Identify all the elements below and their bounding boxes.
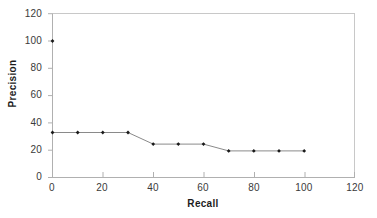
- precision-recall-chart: 120 100 80 60 40 20 0 0 20 40 60 80 100 …: [0, 0, 377, 218]
- data-point: [76, 131, 80, 135]
- plot-frame: [52, 14, 355, 178]
- data-point: [101, 131, 105, 135]
- data-point: [151, 142, 155, 146]
- data-point: [51, 39, 55, 43]
- data-point: [176, 142, 180, 146]
- series-line: [53, 133, 305, 151]
- data-point: [51, 131, 55, 135]
- plot-area: [0, 0, 377, 218]
- data-point: [227, 149, 231, 153]
- x-axis-tick-marks: [53, 172, 355, 178]
- y-axis-tick-marks: [48, 14, 52, 178]
- data-point: [126, 131, 130, 135]
- data-point: [302, 149, 306, 153]
- series-markers: [51, 39, 307, 153]
- data-point: [277, 149, 281, 153]
- data-point: [252, 149, 256, 153]
- data-point: [202, 142, 206, 146]
